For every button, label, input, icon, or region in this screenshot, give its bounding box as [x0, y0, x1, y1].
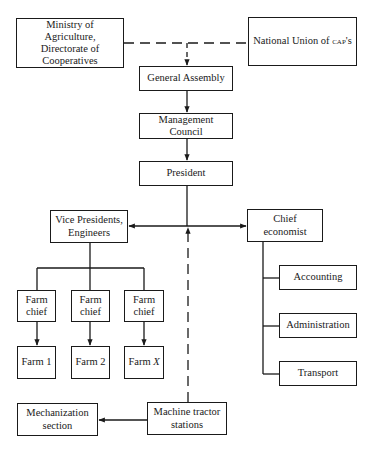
farm-chief-1-box: Farm chief [17, 290, 56, 322]
farm-chief-2-box: Farm chief [71, 290, 110, 322]
farm-chief-3-line2: chief [133, 306, 155, 318]
farm-x-box: Farm X [124, 346, 164, 379]
administration-label: Administration [286, 319, 350, 331]
transport-box: Transport [279, 361, 357, 386]
farm-1-box: Farm 1 [17, 346, 56, 379]
farm-chief-2-line2: chief [79, 306, 101, 318]
farm-x-var: X [153, 356, 159, 367]
farm-chief-3-box: Farm chief [124, 290, 164, 322]
ministry-box: Ministry of Agriculture, Directorate of … [16, 18, 124, 68]
management-council-box: Management Council [139, 113, 233, 139]
vice-presidents-box: Vice Presidents, Engineers [50, 210, 128, 243]
union-abbr: CAP [332, 35, 346, 46]
transport-label: Transport [298, 367, 338, 379]
mechanization-line2: section [26, 420, 88, 432]
president-box: President [139, 161, 233, 186]
union-prefix: National Union of [253, 35, 332, 46]
administration-box: Administration [279, 313, 357, 338]
ministry-line3: Cooperatives [20, 55, 120, 67]
ministry-line1: Ministry of Agriculture, [20, 19, 120, 43]
mts-line2: stations [154, 419, 221, 431]
farm-chief-1-line1: Farm [25, 294, 47, 306]
farm-2-box: Farm 2 [71, 346, 110, 379]
farm-chief-1-line2: chief [25, 306, 47, 318]
ministry-line2: Directorate of [20, 43, 120, 55]
management-council-label: Management Council [143, 114, 229, 138]
president-label: President [166, 167, 205, 179]
farm-1-label: Farm 1 [21, 356, 51, 368]
accounting-label: Accounting [294, 271, 343, 283]
union-suffix: 's [346, 35, 352, 46]
mts-line1: Machine tractor [154, 406, 221, 418]
mechanization-line1: Mechanization [26, 407, 88, 419]
farm-x-prefix: Farm [128, 356, 153, 367]
general-assembly-box: General Assembly [139, 66, 233, 91]
national-union-box: National Union of CAP's [248, 17, 357, 66]
accounting-box: Accounting [279, 265, 357, 290]
mechanization-section-box: Mechanization section [17, 403, 98, 436]
farm-2-label: Farm 2 [75, 356, 105, 368]
chief-economist-box: Chief economist [247, 209, 323, 242]
farm-chief-2-line1: Farm [79, 294, 101, 306]
vice-presidents-line1: Vice Presidents, [55, 214, 123, 226]
vice-presidents-line2: Engineers [55, 227, 123, 239]
machine-tractor-stations-box: Machine tractor stations [147, 402, 227, 435]
chief-economist-label: Chief economist [251, 213, 319, 237]
farm-chief-3-line1: Farm [133, 294, 155, 306]
general-assembly-label: General Assembly [147, 72, 224, 84]
